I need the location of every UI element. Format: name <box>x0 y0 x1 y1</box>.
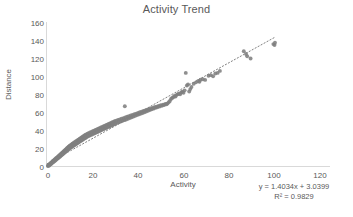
trendline-r-squared: R² = 0.9829 <box>238 192 350 202</box>
data-point <box>190 85 194 89</box>
trendline <box>47 37 276 164</box>
trendline-equation: y = 1.4034x + 3.0399 <box>238 182 350 192</box>
trendline-annotation: y = 1.4034x + 3.0399 R² = 0.9829 <box>238 182 350 202</box>
data-point <box>203 78 207 82</box>
data-point <box>184 71 188 75</box>
data-point <box>123 104 127 108</box>
data-point <box>218 69 222 73</box>
data-point <box>273 41 277 45</box>
data-point <box>245 54 249 58</box>
data-point <box>183 88 187 92</box>
data-point <box>249 57 253 61</box>
scatter-chart: Activity Trend Distance 160 140 120 100 … <box>0 0 353 217</box>
data-point-group <box>46 41 277 168</box>
